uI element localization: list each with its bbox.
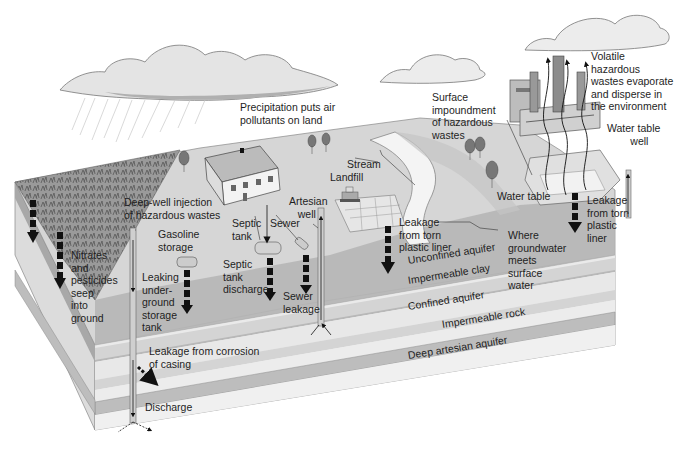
label-gasoline-storage: Gasoline storage — [158, 228, 199, 253]
septic-tank-icon — [255, 242, 281, 254]
rain-icon — [72, 98, 205, 142]
block-diagram-artwork — [0, 0, 677, 453]
label-septic-tank-discharge: Septic tank discharge — [223, 258, 269, 296]
storage-tank-icon — [177, 257, 197, 267]
label-groundwater-meets-surface-water: Where groundwater meets surface water — [508, 229, 566, 292]
label-discharge: Discharge — [145, 401, 192, 414]
label-sewer-leakage: Sewer leakage — [283, 290, 320, 315]
label-water-table-well: Water table well — [607, 122, 660, 147]
label-sewer: Sewer — [270, 217, 300, 230]
groundwater-contamination-diagram: Precipitation puts air pollutants on lan… — [0, 0, 677, 453]
label-leaking-storage-tank: Leaking under- ground storage tank — [142, 271, 179, 334]
label-landfill: Landfill — [330, 171, 363, 184]
label-precipitation: Precipitation puts air pollutants on lan… — [240, 101, 335, 126]
label-nitrates-pesticides: Nitrates and pesticides seep into ground — [71, 249, 118, 324]
label-water-table: Water table — [497, 190, 550, 203]
label-leakage-corrosion-casing: Leakage from corrosion of casing — [149, 345, 259, 370]
label-volatile-hazardous-wastes: Volatile hazardous wastes evaporate and … — [591, 50, 673, 113]
label-septic-tank: Septic tank — [232, 217, 261, 242]
label-stream: Stream — [347, 158, 381, 171]
label-deep-well-injection: Deep-well injection of hazardous wastes — [124, 196, 220, 221]
cloud-icon — [380, 55, 485, 84]
smokestack-icon — [530, 56, 585, 112]
cloud-icon — [525, 15, 669, 50]
label-leakage-torn-liner-impoundment: Leakage from torn plastic liner — [587, 194, 629, 244]
label-surface-impoundment: Surface impoundment of hazardous wastes — [432, 91, 496, 141]
cloud-icon — [60, 45, 338, 100]
